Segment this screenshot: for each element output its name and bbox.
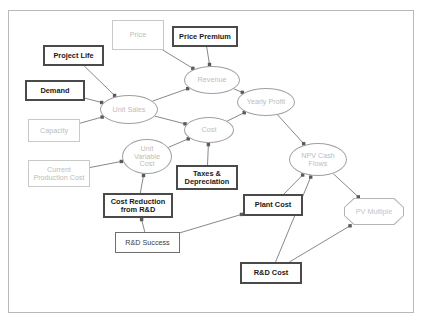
diagram-canvas: PricePrice PremiumProject LifeDemandCapa… xyxy=(0,0,424,327)
node-label: Price Premium xyxy=(177,33,233,41)
node-capacity[interactable]: Capacity xyxy=(28,119,80,142)
node-label: Cost xyxy=(200,126,219,134)
node-label: Taxes & Depreciation xyxy=(183,170,232,186)
node-demand[interactable]: Demand xyxy=(25,80,85,101)
node-label: Project Life xyxy=(51,52,95,60)
node-current_prod_cost[interactable]: Current Production Cost xyxy=(28,160,90,187)
node-label: NPV Cash Flows xyxy=(299,152,337,168)
node-yearly_profit[interactable]: Yearly Profit xyxy=(237,88,295,116)
node-label: Plant Cost xyxy=(253,201,294,209)
node-project_life[interactable]: Project Life xyxy=(43,45,104,66)
node-label: Yearly Profit xyxy=(245,98,287,106)
node-label: R&D Cost xyxy=(252,269,291,277)
node-label: PV Multiple xyxy=(345,199,403,224)
node-unit_sales[interactable]: Unit Sales xyxy=(100,95,158,124)
node-pv_multiple[interactable]: PV Multiple xyxy=(344,198,404,225)
node-price_premium[interactable]: Price Premium xyxy=(172,26,238,47)
node-revenue[interactable]: Revenue xyxy=(184,66,240,94)
node-taxes_dep[interactable]: Taxes & Depreciation xyxy=(176,165,238,190)
node-label: Capacity xyxy=(38,127,70,135)
node-label: Cost Reduction from R&D xyxy=(109,198,168,214)
node-cost_reduction[interactable]: Cost Reduction from R&D xyxy=(103,193,173,218)
node-price[interactable]: Price xyxy=(112,20,164,50)
node-plant_cost[interactable]: Plant Cost xyxy=(243,194,303,216)
node-label: Price xyxy=(128,31,148,39)
node-label: Current Production Cost xyxy=(31,166,86,182)
node-cost[interactable]: Cost xyxy=(184,117,234,143)
node-rd_cost[interactable]: R&D Cost xyxy=(240,262,302,284)
node-label: Unit Variable Cost xyxy=(132,145,162,168)
node-label: R&D Success xyxy=(123,239,171,247)
node-label: Revenue xyxy=(196,76,229,84)
node-label: Unit Sales xyxy=(111,106,148,114)
node-unit_var_cost[interactable]: Unit Variable Cost xyxy=(122,139,172,174)
node-label: Demand xyxy=(38,87,71,95)
node-npv_cash_flows[interactable]: NPV Cash Flows xyxy=(289,143,347,176)
node-rd_success[interactable]: R&D Success xyxy=(115,232,180,253)
